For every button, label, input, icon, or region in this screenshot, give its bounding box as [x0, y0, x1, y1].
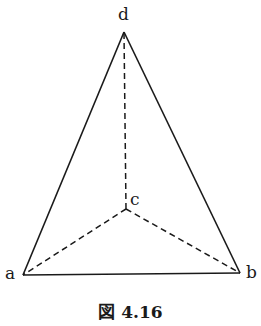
edge-c-d-hidden	[124, 32, 126, 209]
vertex-label-c: c	[130, 191, 140, 208]
vertex-label-b: b	[246, 264, 257, 281]
edge-b-d	[124, 32, 240, 273]
edge-c-b-hidden	[126, 209, 240, 273]
vertex-label-d: d	[118, 6, 129, 23]
vertex-label-a: a	[5, 265, 15, 282]
figure-caption: 図 4.16	[0, 298, 261, 323]
edge-a-b	[23, 273, 240, 275]
tetrahedron-diagram	[0, 0, 261, 326]
edge-a-d	[23, 32, 124, 275]
edge-c-a-hidden	[23, 209, 126, 275]
